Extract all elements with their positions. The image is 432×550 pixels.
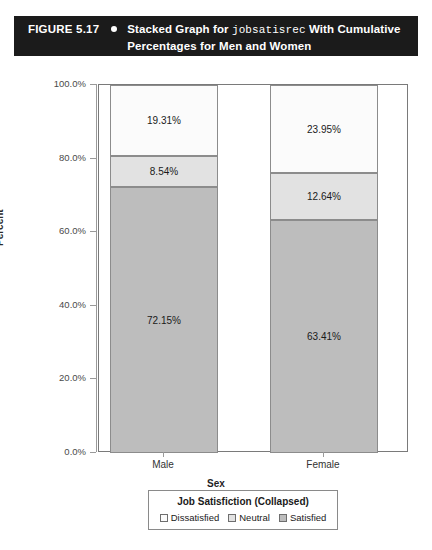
plot-area: 72.15%8.54%19.31%63.41%12.64%23.95% — [98, 84, 408, 452]
caption-prefix: Stacked Graph for — [127, 23, 232, 35]
bar-stack[interactable]: 63.41%12.64%23.95% — [270, 85, 378, 453]
x-axis-tick — [323, 452, 324, 457]
y-axis-title: Percent — [0, 209, 5, 246]
legend-swatch-icon — [228, 514, 236, 522]
bar-segment-dissatisfied[interactable]: 19.31% — [110, 85, 218, 156]
bar-segment-neutral[interactable]: 8.54% — [110, 156, 218, 187]
bar-segment-value-label: 8.54% — [150, 166, 178, 177]
legend-swatch-icon — [160, 514, 168, 522]
stacked-bar-chart: Percent 0.0%20.0%40.0%60.0%80.0%100.0% 7… — [0, 60, 432, 550]
legend-item-satisfied[interactable]: Satisfied — [279, 512, 326, 523]
y-axis-line — [96, 84, 97, 452]
figure-caption-bar: FIGURE 5.17 Stacked Graph for jobsatisre… — [14, 16, 418, 56]
x-axis-tick-label-female: Female — [278, 459, 368, 470]
legend: Job Satisfiction (Collapsed) Dissatisfie… — [148, 490, 338, 530]
y-axis-tick — [90, 305, 96, 306]
bullet-dot-icon — [111, 26, 117, 32]
bar-segment-value-label: 12.64% — [307, 191, 341, 202]
y-axis-tick — [90, 84, 96, 85]
legend-item-label: Satisfied — [290, 512, 326, 523]
legend-item-label: Dissatisfied — [171, 512, 220, 523]
y-axis-tick-label: 20.0% — [34, 372, 86, 383]
caption-variable-name: jobsatisrec — [232, 24, 306, 36]
legend-item-neutral[interactable]: Neutral — [228, 512, 270, 523]
bar-segment-value-label: 63.41% — [307, 331, 341, 342]
bar-segment-satisfied[interactable]: 72.15% — [110, 187, 218, 453]
y-axis-tick — [90, 452, 96, 453]
x-axis-tick-label-male: Male — [118, 459, 208, 470]
x-axis-tick — [163, 452, 164, 457]
legend-item-dissatisfied[interactable]: Dissatisfied — [160, 512, 220, 523]
y-axis-tick-label: 100.0% — [34, 78, 86, 89]
bar-segment-value-label: 72.15% — [147, 315, 181, 326]
bar-segment-neutral[interactable]: 12.64% — [270, 173, 378, 220]
bar-segment-dissatisfied[interactable]: 23.95% — [270, 85, 378, 173]
legend-item-label: Neutral — [239, 512, 270, 523]
legend-title: Job Satisfiction (Collapsed) — [155, 496, 331, 507]
legend-items: DissatisfiedNeutralSatisfied — [155, 512, 331, 523]
y-axis-tick-label: 80.0% — [34, 152, 86, 163]
y-axis-tick — [90, 158, 96, 159]
bar-stack[interactable]: 72.15%8.54%19.31% — [110, 85, 218, 453]
y-axis-tick-label: 0.0% — [34, 446, 86, 457]
y-axis-tick-label: 60.0% — [34, 225, 86, 236]
bar-segment-value-label: 19.31% — [147, 115, 181, 126]
bar-segment-value-label: 23.95% — [307, 124, 341, 135]
y-axis-tick — [90, 231, 96, 232]
y-axis-tick — [90, 378, 96, 379]
figure-number: FIGURE 5.17 — [28, 21, 99, 37]
x-axis-title: Sex — [0, 478, 432, 489]
y-axis-tick-label: 40.0% — [34, 299, 86, 310]
bar-segment-satisfied[interactable]: 63.41% — [270, 220, 378, 453]
figure-caption-text: Stacked Graph for jobsatisrec With Cumul… — [127, 21, 408, 54]
legend-swatch-icon — [279, 514, 287, 522]
